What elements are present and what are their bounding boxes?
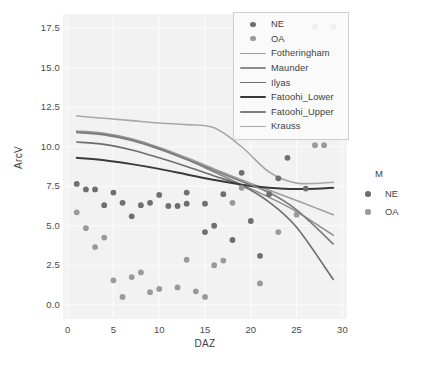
point-OA [239,185,245,191]
group-legend-label: OA [379,207,398,217]
point-NE [248,218,254,224]
point-OA [156,286,162,292]
point-NE [184,201,190,207]
legend-item-label: OA [268,34,285,44]
x-axis-label: DAZ [63,338,347,349]
y-tick-label: 10.0 [20,142,60,152]
point-NE [230,237,236,243]
y-tick-label: 7.5 [20,181,60,191]
point-NE [138,202,144,208]
point-NE [303,186,309,192]
group-legend-item: NE [357,185,417,203]
point-NE [120,200,126,206]
point-NE [110,190,116,196]
point-NE [285,155,291,161]
group-legend-dot-icon [365,209,370,214]
point-NE [202,201,208,207]
group-legend-dot-icon [365,191,370,196]
legend-item: Fatoohi_Lower [238,90,343,105]
x-tick-label: 5 [98,324,128,335]
point-NE [147,200,153,206]
legend-item: Ilyas [238,75,343,90]
x-tick-label: 0 [53,324,83,335]
point-OA [120,294,126,300]
x-tick-label: 10 [144,324,174,335]
legend-dot-icon [250,22,255,27]
point-OA [312,142,318,148]
legend-item: NE [238,17,343,32]
point-NE [175,203,181,209]
point-NE [257,253,263,259]
point-OA [321,142,327,148]
point-NE [266,191,272,197]
chart-legend: NEOAFotheringhamMaunderIlyasFatoohi_Lowe… [233,12,349,140]
x-tick-label: 25 [282,324,312,335]
x-tick-label: 20 [236,324,266,335]
point-OA [184,257,190,263]
legend-line-icon [240,111,266,113]
point-OA [193,288,199,294]
point-NE [101,202,107,208]
legend-item-label: Krauss [268,121,301,131]
point-NE [165,203,171,209]
point-OA [220,258,226,264]
legend-item-label: Maunder [268,63,308,73]
x-tick-label: 15 [190,324,220,335]
x-tick-label: 30 [327,324,357,335]
point-NE [220,191,226,197]
legend-dot-icon [250,36,255,41]
legend-line-icon [240,53,266,55]
point-NE [83,187,89,193]
point-NE [184,190,190,196]
legend-item-label: Fatoohi_Upper [268,107,334,117]
legend-line-icon [240,96,266,98]
point-OA [129,274,135,280]
point-OA [275,229,281,235]
legend-item-label: NE [268,19,284,29]
legend-item: Maunder [238,61,343,76]
point-NE [156,192,162,198]
y-axis-label: ArcV [13,136,24,180]
y-tick-label: 2.5 [20,260,60,270]
y-tick-label: 17.5 [20,23,60,33]
legend-item: OA [238,32,343,47]
point-NE [202,229,208,235]
group-legend: M NEOA [357,168,417,221]
legend-item: Fatoohi_Upper [238,105,343,120]
legend-line-icon [240,126,266,128]
group-legend-title: M [375,168,417,179]
point-OA [230,200,236,206]
x-axis-ticks: 051015202530 [0,324,422,338]
y-axis-ticks: 0.02.55.07.510.012.515.017.5 [12,0,60,377]
legend-line-icon [240,82,266,84]
legend-item-label: Ilyas [268,78,291,88]
y-tick-label: 15.0 [20,63,60,73]
legend-item: Krauss [238,119,343,134]
point-OA [110,277,116,283]
point-OA [211,262,217,268]
legend-line-icon [240,67,266,69]
point-NE [239,170,245,176]
point-OA [101,235,107,241]
point-OA [83,225,89,231]
point-OA [138,269,144,275]
group-legend-item: OA [357,203,417,221]
legend-item-label: Fatoohi_Lower [268,92,334,102]
point-NE [92,187,98,193]
point-NE [211,223,217,229]
chart-root: 0.02.55.07.510.012.515.017.5 ArcV 051015… [0,0,422,377]
point-OA [175,284,181,290]
point-OA [294,212,300,218]
point-NE [129,213,135,219]
legend-item: Fotheringham [238,46,343,61]
y-tick-label: 0.0 [20,300,60,310]
point-OA [257,281,263,287]
y-tick-label: 12.5 [20,102,60,112]
group-legend-label: NE [379,189,398,199]
point-OA [74,209,80,215]
y-tick-label: 5.0 [20,221,60,231]
point-OA [202,294,208,300]
point-OA [92,244,98,250]
legend-item-label: Fotheringham [268,48,330,58]
point-NE [275,175,281,181]
